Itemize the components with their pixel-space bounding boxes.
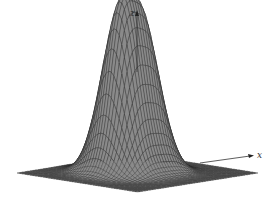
z-axis-label: z [130, 8, 135, 18]
x-axis [200, 154, 254, 163]
surface-plot [0, 0, 272, 204]
x-axis-label: x [257, 150, 262, 160]
surface-mesh [17, 0, 258, 192]
x-axis-arrow-icon [248, 154, 254, 158]
